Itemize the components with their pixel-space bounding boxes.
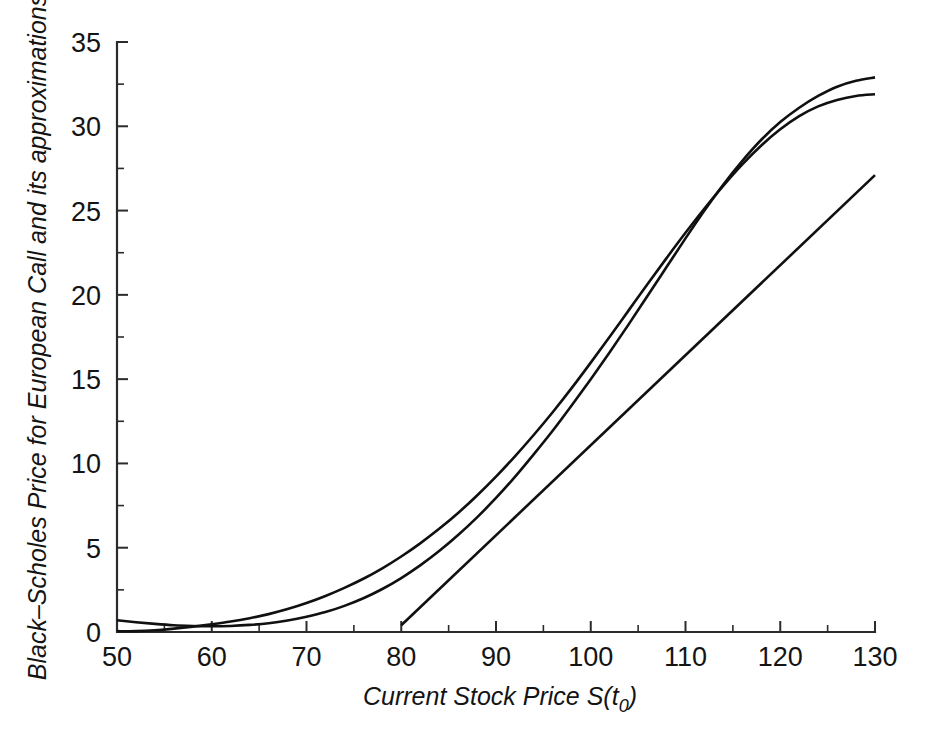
series-line-2 [117,94,875,631]
chart-tick-labels: 506070809010011012013005101520253035 [71,28,898,672]
x-tick-label: 100 [568,642,613,672]
y-tick-label: 15 [71,365,101,395]
series-line-1 [117,77,875,626]
chart-axes [117,42,875,632]
x-tick-label: 50 [102,642,132,672]
y-tick-label: 0 [86,618,101,648]
x-tick-label: 70 [291,642,321,672]
x-tick-label: 110 [664,642,707,672]
y-tick-label: 20 [71,281,101,311]
y-tick-label: 30 [71,112,101,142]
x-tick-label: 120 [758,642,803,672]
chart-ticks [117,42,875,632]
chart-plot-area: 506070809010011012013005101520253035 Cur… [0,0,925,738]
y-tick-label: 10 [71,449,101,479]
axis-spines [117,42,875,632]
x-axis-label: Current Stock Price S(t0) [363,682,637,716]
y-tick-label: 35 [71,28,101,58]
y-tick-label: 5 [86,534,101,564]
x-tick-label: 130 [852,642,897,672]
x-tick-label: 60 [197,642,227,672]
chart-figure: 506070809010011012013005101520253035 Cur… [0,0,925,738]
x-tick-label: 80 [386,642,416,672]
x-tick-label: 90 [481,642,511,672]
chart-series-lines [117,77,875,631]
y-tick-label: 25 [71,197,101,227]
series-line-3 [401,175,875,625]
y-axis-label: Black–Scholes Price for European Call an… [23,0,51,680]
